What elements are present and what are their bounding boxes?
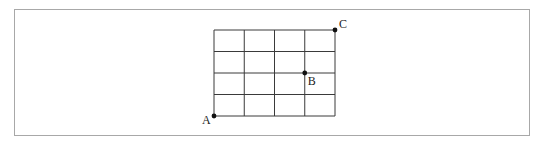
point-label: C bbox=[339, 17, 347, 31]
point-a: A bbox=[202, 113, 216, 127]
point-label: A bbox=[202, 113, 211, 127]
point-label: B bbox=[308, 74, 316, 88]
point-c: C bbox=[333, 17, 347, 32]
point-marker-icon bbox=[302, 71, 307, 76]
point-marker-icon bbox=[333, 28, 338, 33]
grid-lines bbox=[214, 30, 335, 116]
point-marker-icon bbox=[212, 114, 217, 119]
grid-diagram: ABC bbox=[0, 0, 544, 143]
